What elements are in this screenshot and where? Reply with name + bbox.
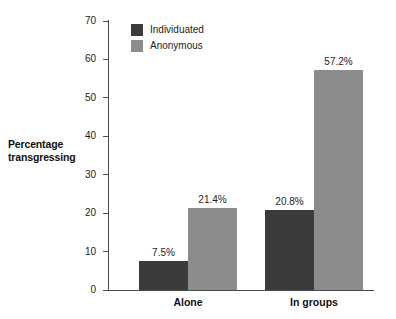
- y-axis-tick-label: 20: [85, 206, 96, 219]
- plot-area: 7.5%21.4%20.8%57.2%: [108, 21, 374, 290]
- bar-value-label: 7.5%: [152, 247, 175, 259]
- y-axis-tick-label: 60: [85, 52, 96, 65]
- legend-label: Individuated: [150, 24, 204, 36]
- bar-anonymous-alone: 21.4%: [188, 208, 237, 290]
- bar-individuated-alone: 7.5%: [139, 261, 188, 290]
- bar-value-label: 57.2%: [324, 56, 352, 68]
- legend-swatch-icon: [131, 40, 143, 52]
- y-axis-tick-label: 50: [85, 91, 96, 104]
- y-axis-title: Percentage transgressing: [8, 138, 88, 164]
- bar-individuated-in-groups: 20.8%: [265, 210, 314, 290]
- bar-anonymous-in-groups: 57.2%: [314, 70, 363, 290]
- y-axis-tick-label: 40: [85, 129, 96, 142]
- legend-label: Anonymous: [150, 40, 203, 52]
- legend-item-individuated: Individuated: [131, 22, 204, 38]
- bar-chart: Percentage transgressing 010203040506070…: [0, 0, 396, 319]
- y-axis-title-line-2: transgressing: [8, 151, 88, 164]
- bar-value-label: 21.4%: [198, 194, 226, 206]
- x-axis-line: [108, 290, 374, 291]
- legend-swatch-icon: [131, 24, 143, 36]
- y-axis-tick-label: 0: [90, 283, 96, 296]
- y-axis-tick-label: 70: [85, 14, 96, 27]
- legend-item-anonymous: Anonymous: [131, 38, 204, 54]
- chart-legend: IndividuatedAnonymous: [131, 22, 204, 54]
- x-axis-category-label-alone: Alone: [173, 296, 202, 308]
- y-axis-tick-label: 30: [85, 168, 96, 181]
- bar-value-label: 20.8%: [275, 196, 303, 208]
- x-axis-category-label-in-groups: In groups: [290, 296, 338, 308]
- y-axis-title-line-1: Percentage: [8, 138, 88, 151]
- y-axis-tick-label: 10: [85, 245, 96, 258]
